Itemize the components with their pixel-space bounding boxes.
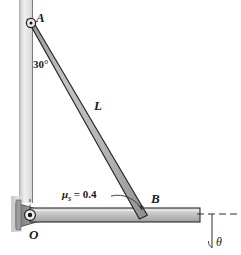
- vertical-wall: [19, 0, 33, 203]
- label-point-o: O: [29, 228, 38, 241]
- friction-value: = 0.4: [74, 188, 97, 200]
- theta-dimension: [208, 214, 212, 248]
- label-point-a: A: [36, 11, 45, 24]
- label-point-b: B: [151, 192, 160, 205]
- pin-joint-o: [25, 210, 36, 221]
- label-angle-30: 30°: [33, 59, 48, 70]
- horizontal-bar: [30, 208, 200, 222]
- figure-canvas: [0, 0, 241, 255]
- pin-joint-a: [26, 18, 35, 27]
- label-friction-coefficient: μs = 0.4: [62, 189, 97, 203]
- label-angle-theta: θ: [216, 236, 222, 248]
- mu-subscript: s: [68, 194, 71, 203]
- statics-figure: A 30° L μs = 0.4 B O θ: [0, 0, 241, 255]
- label-bar-length-L: L: [94, 99, 102, 112]
